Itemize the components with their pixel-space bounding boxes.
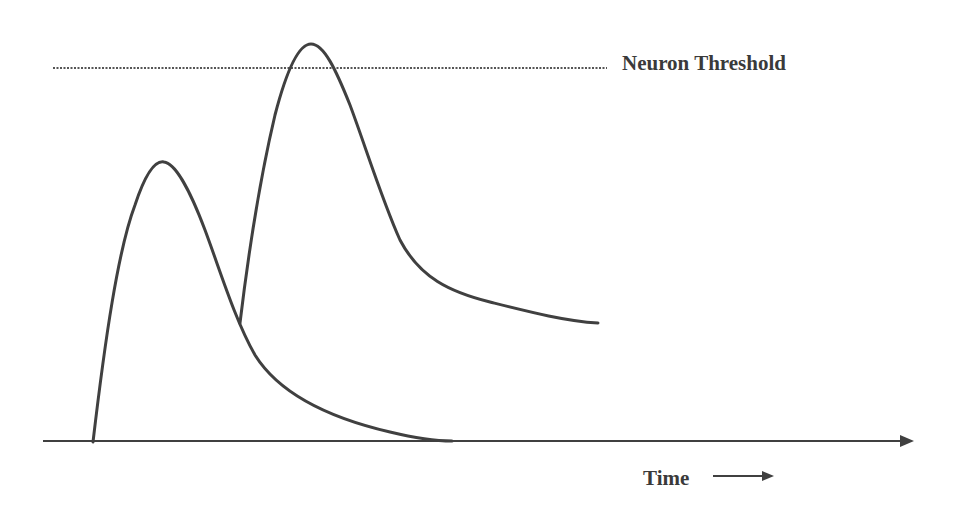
time-direction-arrow-icon — [762, 471, 774, 481]
threshold-label: Neuron Threshold — [622, 51, 786, 75]
first-potential-curve — [93, 162, 452, 442]
time-label: Time — [643, 466, 689, 490]
neuron-summation-diagram: Neuron Threshold Time — [0, 0, 962, 509]
second-potential-curve — [240, 44, 598, 323]
time-axis-arrowhead-icon — [900, 435, 914, 447]
